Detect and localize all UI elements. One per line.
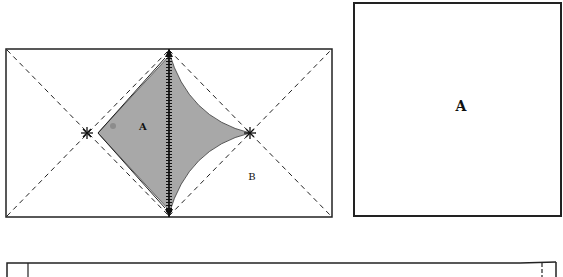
shaded-region-a-right <box>169 52 250 214</box>
shaded-region-a-left <box>98 56 169 210</box>
bottom-panel <box>7 262 556 277</box>
region-a-label-left: A <box>139 122 147 132</box>
region-a-label-right: A <box>456 99 467 113</box>
hatched-vertical-line <box>165 49 173 217</box>
smudge-mark <box>110 123 116 129</box>
region-b-label: B <box>248 172 255 182</box>
diagram-canvas <box>0 0 563 277</box>
left-penrose-panel <box>6 49 332 217</box>
star-marker-left <box>81 127 93 139</box>
